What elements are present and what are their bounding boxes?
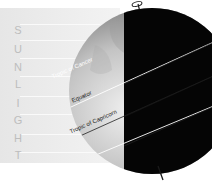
axis-ring [132,1,143,8]
globe-graphic [0,0,212,182]
earth-sunlight-diagram: S U N L I G H T [0,0,212,182]
night-side [124,0,212,182]
